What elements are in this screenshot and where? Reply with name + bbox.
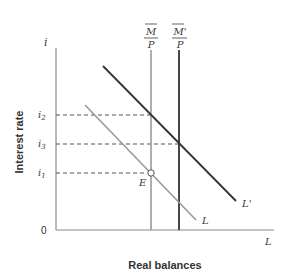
equilibrium-label: E bbox=[138, 177, 147, 188]
demand-curve-l-prime-label: L' bbox=[241, 198, 251, 209]
svg-text:P: P bbox=[147, 39, 155, 50]
demand-curve-l-label: L bbox=[201, 215, 209, 226]
money-supply-label-new: M' P bbox=[172, 24, 187, 50]
equilibrium-point bbox=[148, 170, 154, 176]
y-axis-symbol: i bbox=[44, 36, 48, 49]
i2-label: i2 bbox=[38, 109, 46, 122]
svg-text:i1: i1 bbox=[38, 167, 46, 180]
svg-text:P: P bbox=[176, 39, 184, 50]
svg-text:M': M' bbox=[173, 26, 187, 37]
demand-curve-l-prime bbox=[103, 66, 236, 201]
x-axis-title: Real balances bbox=[128, 259, 201, 271]
i1-label: i1 bbox=[38, 167, 46, 180]
svg-text:i2: i2 bbox=[38, 109, 46, 122]
origin-label: 0 bbox=[41, 225, 47, 236]
x-axis-symbol: L bbox=[264, 236, 272, 247]
svg-text:i3: i3 bbox=[38, 138, 46, 151]
money-supply-label-initial: M P bbox=[144, 24, 158, 50]
y-axis-title: Interest rate bbox=[13, 111, 25, 174]
money-market-diagram: i 0 L Interest rate Real balances i2 i3 … bbox=[0, 0, 289, 279]
i3-label: i3 bbox=[38, 138, 46, 151]
svg-text:M: M bbox=[145, 26, 157, 37]
